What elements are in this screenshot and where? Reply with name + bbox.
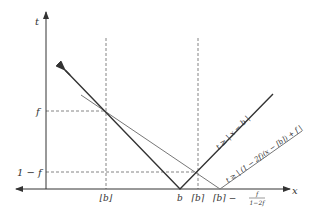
y-tick-one-minus-f: 1 − f: [17, 167, 44, 178]
relaxed-constraint-curve: [81, 95, 302, 189]
x-tick-ceil-b: ⌈b⌉: [192, 193, 205, 203]
abs-curve-arrowhead: [65, 70, 70, 75]
x-tick-floor-b: ⌊b⌋: [100, 193, 113, 203]
y-tick-f: f: [35, 106, 42, 117]
y-axis-label: t: [35, 16, 40, 27]
abs-constraint-label: t ≥ | x − b |: [214, 114, 251, 151]
guide-lines: [46, 38, 198, 189]
x-tick-frac-den: 1−2f: [250, 199, 267, 207]
x-tick-frac-num: f: [255, 190, 260, 198]
x-tick-ceil-b-minus: ⌈b⌉ −: [213, 193, 236, 203]
x-axis-label: x: [292, 185, 298, 196]
diagram-canvas: x t f 1 − f ⌊b⌋ b ⌈b⌉ ⌈b⌉ − f 1−2f t ≥ |…: [0, 0, 318, 215]
x-tick-b: b: [177, 193, 183, 203]
